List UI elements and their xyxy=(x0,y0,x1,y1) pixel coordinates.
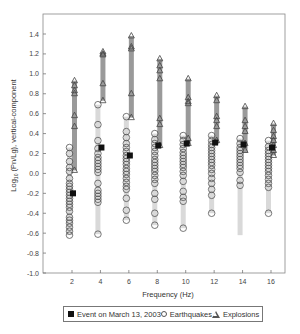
y-tick-label: 0.8 xyxy=(29,90,39,97)
legend-label-earthquakes: Earthquakes xyxy=(170,310,212,319)
x-tick-label: 10 xyxy=(182,278,190,285)
y-tick-label: 1.0 xyxy=(29,70,39,77)
y-tick-label: 0.6 xyxy=(29,110,39,117)
y-tick-label: -0.6 xyxy=(27,230,39,237)
x-tick-label: 12 xyxy=(210,278,218,285)
y-tick-label: -0.2 xyxy=(27,190,39,197)
y-tick-label: 0.0 xyxy=(29,170,39,177)
x-tick-label: 6 xyxy=(127,278,131,285)
y-tick-label: -0.4 xyxy=(27,210,39,217)
y-tick-label: 0.4 xyxy=(29,130,39,137)
event-marker xyxy=(212,140,218,146)
legend-label-explosions: Explosions xyxy=(223,310,259,319)
x-tick-label: 8 xyxy=(155,278,159,285)
event-marker xyxy=(155,143,161,149)
y-axis-label: Log10 (Pn/Lg), vertical-component xyxy=(9,78,19,191)
event-marker xyxy=(241,142,247,148)
open-circle-icon xyxy=(161,311,167,317)
chart-legend: Event on March 13, 2003 Earthquakes Expl… xyxy=(63,306,263,322)
x-axis-label: Frequency (Hz) xyxy=(142,290,194,299)
event-marker xyxy=(269,145,275,151)
x-tick-label: 16 xyxy=(267,278,275,285)
y-tick-label: 1.2 xyxy=(29,50,39,57)
open-triangle-icon xyxy=(212,311,220,318)
x-tick-label: 4 xyxy=(98,278,102,285)
plot-area: -1.0-0.8-0.6-0.4-0.20.00.20.40.60.81.01.… xyxy=(0,0,300,334)
filled-square-icon xyxy=(68,311,74,317)
explosion-range-bar xyxy=(100,52,105,101)
legend-item-explosions: Explosions xyxy=(212,310,259,319)
x-tick-label: 2 xyxy=(70,278,74,285)
plot-frame xyxy=(43,14,285,273)
event-marker xyxy=(184,141,190,147)
event-marker xyxy=(127,152,133,158)
y-tick-label: 0.2 xyxy=(29,150,39,157)
event-marker xyxy=(70,190,76,196)
legend-item-earthquakes: Earthquakes xyxy=(161,310,212,319)
legend-label-event: Event on March 13, 2003 xyxy=(77,310,161,319)
chart-figure: -1.0-0.8-0.6-0.4-0.20.00.20.40.60.81.01.… xyxy=(0,0,300,334)
event-marker xyxy=(98,145,104,151)
x-tick-label: 14 xyxy=(239,278,247,285)
y-tick-label: -0.8 xyxy=(27,250,39,257)
legend-item-event: Event on March 13, 2003 xyxy=(68,310,161,319)
y-tick-label: 1.4 xyxy=(29,31,39,38)
y-tick-label: -1.0 xyxy=(27,270,39,277)
